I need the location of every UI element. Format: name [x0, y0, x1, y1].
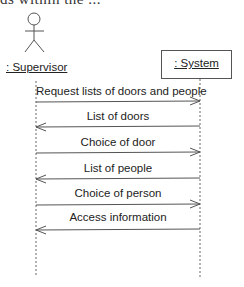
message-label-1: Request lists of doors and people: [36, 85, 200, 97]
system-object-label: : System: [162, 57, 231, 69]
message-arrow-2: [36, 123, 200, 131]
message-label-2: List of doors: [36, 110, 200, 122]
message-label-3: Choice of door: [36, 136, 200, 148]
message-arrow-5: [36, 200, 200, 208]
message-arrow-4: [36, 175, 200, 183]
supervisor-actor-label: : Supervisor: [6, 61, 67, 73]
system-object-box: : System: [161, 50, 232, 79]
message-label-4: List of people: [36, 162, 200, 174]
message-arrow-6: [36, 226, 200, 234]
message-label-5: Choice of person: [36, 187, 200, 199]
message-arrow-3: [36, 148, 200, 156]
message-arrow-1: [36, 97, 200, 105]
stick-figure-actor-icon: [25, 13, 44, 52]
message-label-6: Access information: [36, 211, 200, 223]
